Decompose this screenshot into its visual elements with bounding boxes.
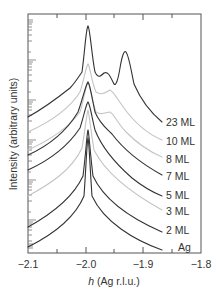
x-axis-title-unit: (Ag r.l.u.) <box>94 275 140 287</box>
series-label-5ml: 5 ML <box>166 189 190 201</box>
y-axis-ticks <box>28 20 36 248</box>
x-axis-ticks <box>57 14 172 253</box>
x-tick-label: −1.9 <box>133 258 154 270</box>
curve-ag <box>28 138 162 250</box>
curve-3ml <box>28 110 162 210</box>
series-label-2ml: 2 ML <box>166 224 190 236</box>
curve-8ml <box>28 82 162 157</box>
series-label-7ml: 7 ML <box>166 170 190 182</box>
series-label-8ml: 8 ML <box>166 153 190 165</box>
chart: 23 ML 10 ML 8 ML 7 ML 5 ML 3 ML 2 ML Ag … <box>0 0 216 294</box>
series-label-3ml: 3 ML <box>166 205 190 217</box>
plot-frame <box>28 14 201 253</box>
series-label-23ml: 23 ML <box>166 116 195 128</box>
x-tick-label: −1.8 <box>191 258 212 270</box>
series-label-10ml: 10 ML <box>166 135 195 147</box>
x-tick-label: −2.0 <box>76 258 97 270</box>
y-axis-title: Intensity (arbitrary units) <box>7 78 19 191</box>
series-label-ag: Ag <box>178 241 191 253</box>
curve-5ml <box>28 102 162 196</box>
x-tick-label: −2.1 <box>18 258 39 270</box>
x-axis-title: h (Ag r.l.u.) <box>88 275 139 287</box>
